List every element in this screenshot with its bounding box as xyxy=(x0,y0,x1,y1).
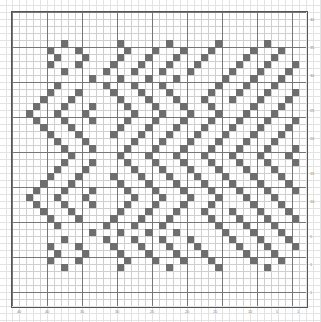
pattern-cell xyxy=(250,173,257,180)
x-tick-label: 15 xyxy=(213,309,217,314)
pattern-cell xyxy=(89,145,96,152)
pattern-cell xyxy=(208,89,215,96)
pattern-cell xyxy=(110,61,117,68)
pattern-cell xyxy=(75,47,82,54)
pattern-cell xyxy=(145,75,152,82)
x-tick-label: 20 xyxy=(185,309,189,314)
pattern-cell xyxy=(47,243,54,250)
x-tick-label: 25 xyxy=(150,309,154,314)
pattern-cell xyxy=(103,68,110,75)
pattern-cell xyxy=(236,215,243,222)
pattern-cell xyxy=(250,229,257,236)
pattern-cell xyxy=(222,131,229,138)
pattern-cell xyxy=(264,243,271,250)
pattern-cell xyxy=(166,215,173,222)
pattern-cell xyxy=(243,54,250,61)
pattern-cell xyxy=(201,124,208,131)
pattern-cell xyxy=(257,208,264,215)
pattern-cell xyxy=(264,61,271,68)
pattern-cell xyxy=(145,250,152,257)
pattern-cell xyxy=(215,138,222,145)
pattern-cell xyxy=(264,145,271,152)
pattern-cell xyxy=(208,47,215,54)
pattern-cell xyxy=(117,208,124,215)
pattern-cell xyxy=(278,201,285,208)
pattern-cell xyxy=(187,110,194,117)
pattern-cell xyxy=(159,82,166,89)
pattern-cell xyxy=(250,75,257,82)
x-tick-label: 10 xyxy=(248,309,252,314)
pattern-cell xyxy=(236,159,243,166)
pattern-cell xyxy=(131,110,138,117)
pattern-cell xyxy=(187,68,194,75)
pattern-cell xyxy=(68,124,75,131)
pattern-cell xyxy=(61,103,68,110)
pattern-cell xyxy=(173,180,180,187)
pattern-cell xyxy=(278,75,285,82)
y-tick-label: 1 xyxy=(310,290,312,295)
pattern-cell xyxy=(215,82,222,89)
pattern-cell xyxy=(117,229,124,236)
pattern-cell xyxy=(138,89,145,96)
pattern-cell xyxy=(180,103,187,110)
pattern-cell xyxy=(208,257,215,264)
pattern-cell xyxy=(215,194,222,201)
pattern-cell xyxy=(236,89,243,96)
pattern-cell xyxy=(236,61,243,68)
pattern-cell xyxy=(68,96,75,103)
plot-area xyxy=(12,12,306,306)
pattern-cell xyxy=(61,187,68,194)
pattern-cell xyxy=(229,124,236,131)
pattern-cell xyxy=(264,187,271,194)
pattern-cell xyxy=(110,173,117,180)
pattern-cell xyxy=(33,103,40,110)
pattern-cell xyxy=(152,145,159,152)
pattern-cell xyxy=(47,131,54,138)
pattern-cell xyxy=(180,47,187,54)
pattern-cell xyxy=(173,229,180,236)
pattern-cell xyxy=(264,159,271,166)
pattern-cell xyxy=(201,208,208,215)
pattern-cell xyxy=(243,82,250,89)
y-tick-label: 40 xyxy=(310,17,314,22)
pattern-cell xyxy=(292,117,299,124)
pattern-cell xyxy=(278,173,285,180)
y-tick-label: 30 xyxy=(310,73,314,78)
pattern-cell xyxy=(75,257,82,264)
y-tick-label: 35 xyxy=(310,45,314,50)
pattern-cell xyxy=(271,166,278,173)
pattern-cell xyxy=(54,194,61,201)
pattern-cell xyxy=(145,180,152,187)
y-tick-label: 5 xyxy=(310,234,312,239)
pattern-cell xyxy=(264,40,271,47)
pattern-cell xyxy=(208,103,215,110)
pattern-cell xyxy=(159,166,166,173)
pattern-cell xyxy=(68,180,75,187)
pattern-cell xyxy=(89,201,96,208)
pattern-cell xyxy=(236,243,243,250)
pattern-cell xyxy=(61,68,68,75)
pattern-cell xyxy=(131,82,138,89)
pattern-cell xyxy=(68,152,75,159)
pattern-cell xyxy=(243,110,250,117)
pattern-cell xyxy=(173,96,180,103)
y-tick-label: 25 xyxy=(310,108,314,113)
pattern-cell xyxy=(166,89,173,96)
pattern-cell xyxy=(131,194,138,201)
pattern-cell xyxy=(75,61,82,68)
pattern-cell xyxy=(292,145,299,152)
pattern-cell xyxy=(264,264,271,271)
pattern-cell xyxy=(61,145,68,152)
pattern-cell xyxy=(138,61,145,68)
x-tick-label: 40 xyxy=(17,309,21,314)
pattern-cell xyxy=(124,47,131,54)
pattern-cell xyxy=(222,75,229,82)
pattern-cell xyxy=(47,173,54,180)
pattern-cell xyxy=(229,96,236,103)
pattern-cell xyxy=(152,47,159,54)
pattern-cell xyxy=(257,152,264,159)
pattern-cell xyxy=(180,145,187,152)
pattern-cell xyxy=(215,110,222,117)
pattern-cell xyxy=(285,96,292,103)
pattern-cell xyxy=(54,54,61,61)
